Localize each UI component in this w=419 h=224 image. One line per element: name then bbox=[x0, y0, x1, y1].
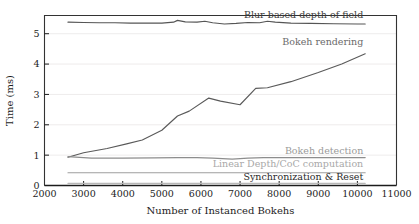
series-line-blur-based-depth-of-field bbox=[68, 20, 365, 24]
series-label-bokeh-detection: Bokeh detection bbox=[285, 145, 363, 156]
bokeh-performance-chart-figure: 012345 200030004000500060007000800090001… bbox=[0, 0, 419, 224]
series-label-linear-depth-coc-computation: Linear Depth/CoC computation bbox=[213, 158, 363, 169]
x-tick-label-7000: 7000 bbox=[228, 188, 252, 199]
y-tick-label-1: 1 bbox=[33, 150, 39, 161]
x-tick-label-5000: 5000 bbox=[150, 188, 174, 199]
y-tick-label-4: 4 bbox=[33, 58, 39, 69]
series-label-synchronization-reset: Synchronization & Reset bbox=[243, 171, 363, 182]
x-tick-label-8000: 8000 bbox=[267, 188, 291, 199]
series-label-bokeh-rendering: Bokeh rendering bbox=[282, 36, 363, 47]
x-tick-label-2000: 2000 bbox=[32, 188, 56, 199]
y-tick-label-2: 2 bbox=[33, 119, 39, 130]
series-label-blur-based-depth-of-field: Blur-based depth of field bbox=[244, 9, 363, 20]
x-tick-label-3000: 3000 bbox=[72, 188, 96, 199]
y-tick-label-5: 5 bbox=[33, 28, 39, 39]
series-inline-labels: Blur-based depth of fieldBokeh rendering… bbox=[213, 9, 364, 182]
y-axis-title: Time (ms) bbox=[4, 75, 15, 126]
grid-lines bbox=[45, 34, 397, 155]
chart-canvas: 012345 200030004000500060007000800090001… bbox=[0, 0, 419, 224]
series-line-bokeh-rendering bbox=[68, 54, 365, 158]
x-axis-title: Number of Instanced Bokehs bbox=[147, 205, 295, 216]
x-tick-label-4000: 4000 bbox=[111, 188, 135, 199]
y-tick-label-3: 3 bbox=[33, 89, 39, 100]
x-tick-label-9000: 9000 bbox=[306, 188, 330, 199]
x-tick-label-11000: 11000 bbox=[381, 188, 411, 199]
x-tick-label-10000: 10000 bbox=[342, 188, 372, 199]
y-axis-ticks: 012345 bbox=[33, 28, 49, 191]
x-tick-label-6000: 6000 bbox=[189, 188, 213, 199]
